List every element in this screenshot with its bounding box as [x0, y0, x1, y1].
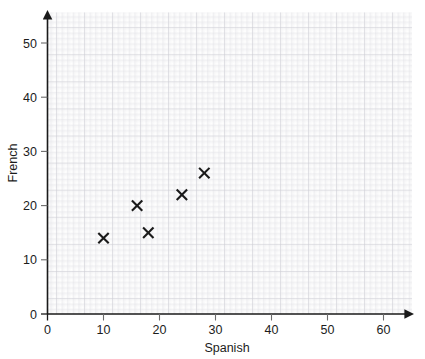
y-tick-label-10: 10: [23, 253, 37, 267]
x-tick-label-10: 10: [97, 323, 111, 337]
x-tick-label-40: 40: [265, 323, 279, 337]
x-axis-title: Spanish: [204, 341, 249, 355]
chart-canvas: 0 10 20 30 40 50 0 10 20 30 40 50 60 Spa…: [0, 0, 425, 359]
plot-grid: [47, 12, 412, 314]
x-tick-label-20: 20: [153, 323, 167, 337]
y-tick-label-30: 30: [23, 145, 37, 159]
y-tick-label-40: 40: [23, 91, 37, 105]
y-tick-label-50: 50: [23, 37, 37, 51]
x-axis: [48, 314, 407, 321]
x-tick-labels: 0 10 20 30 40 50 60: [44, 323, 390, 337]
y-tick-label-0: 0: [30, 308, 37, 322]
y-axis: [41, 18, 48, 314]
x-tick-label-0: 0: [44, 323, 51, 337]
y-tick-label-20: 20: [23, 199, 37, 213]
scatter-plot-figure: 0 10 20 30 40 50 0 10 20 30 40 50 60 Spa…: [0, 0, 425, 359]
y-tick-labels: 0 10 20 30 40 50: [23, 37, 37, 322]
x-tick-label-50: 50: [321, 323, 335, 337]
x-tick-label-60: 60: [377, 323, 391, 337]
x-tick-label-30: 30: [209, 323, 223, 337]
y-axis-title: French: [6, 144, 20, 183]
